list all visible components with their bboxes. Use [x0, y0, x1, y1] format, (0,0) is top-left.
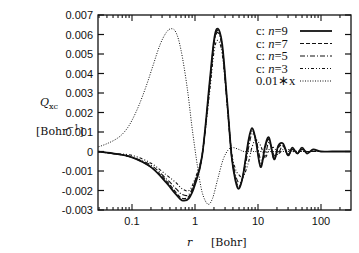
x-axis-unit: [Bohr] — [211, 236, 247, 249]
legend: c: n=9c: n=7c: n=5c: n=30.01∗x — [256, 24, 332, 88]
x-tick-label: 0.1 — [124, 215, 139, 227]
y-axis-label: Qxc — [40, 96, 59, 111]
legend-label: 0.01∗x — [256, 74, 296, 88]
y-tick-label: 0 — [87, 146, 93, 158]
chart: -0.003-0.002-0.00100.0010.0020.0030.0040… — [0, 0, 359, 253]
plot-curves — [96, 29, 350, 205]
y-tick-label: -0.001 — [62, 165, 93, 177]
x-tick-label: 100 — [312, 215, 330, 227]
y-tick-label: 0.005 — [65, 48, 93, 60]
y-tick-label: 0.002 — [65, 107, 93, 119]
y-tick-label: 0.007 — [65, 9, 93, 21]
y-tick-label: -0.003 — [62, 204, 93, 216]
series-line-3 — [96, 40, 350, 191]
x-tick-label: 1 — [192, 215, 198, 227]
x-axis-ticks: 0.1110100 — [99, 15, 340, 227]
y-tick-label: 0.004 — [65, 68, 93, 80]
y-tick-label: -0.002 — [62, 185, 93, 197]
x-tick-label: 10 — [252, 215, 264, 227]
y-tick-label: 0.006 — [65, 29, 93, 41]
x-axis-label: r — [187, 236, 193, 249]
y-tick-label: 0.003 — [65, 87, 93, 99]
